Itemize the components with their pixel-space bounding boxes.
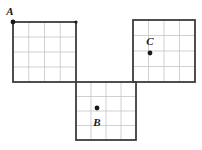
point-label-c: C: [146, 35, 154, 47]
point-label-b: B: [92, 116, 100, 128]
point-dot-a: [11, 20, 16, 25]
point-dot-b: [95, 106, 100, 111]
gridlines-group: [13, 20, 195, 140]
three-square-net-diagram: ABC: [0, 0, 202, 150]
point-labels-group: ABC: [5, 5, 154, 128]
top-middle-vertex-dot: [74, 20, 77, 23]
square-outlines-group: [13, 20, 195, 140]
point-label-a: A: [5, 5, 13, 17]
point-dot-c: [148, 51, 153, 56]
figure-canvas: ABC: [0, 0, 202, 150]
